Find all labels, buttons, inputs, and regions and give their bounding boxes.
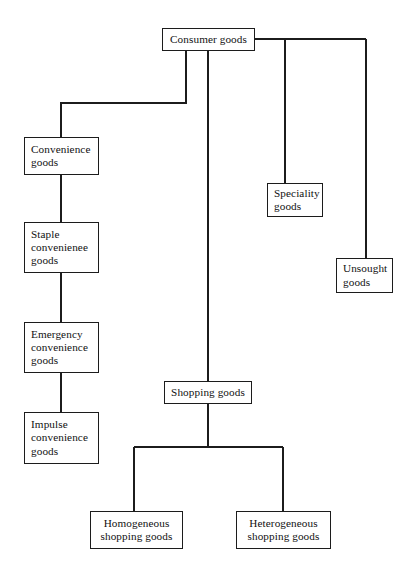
node-homogeneous-shopping-goods: Homogeneous shopping goods bbox=[90, 511, 183, 549]
node-unsought-goods: Unsought goods bbox=[336, 258, 393, 293]
consumer-goods-diagram: Consumer goods Convenience goods Staple … bbox=[0, 0, 405, 571]
node-convenience-goods: Convenience goods bbox=[24, 137, 99, 175]
node-unsought-goods-label: Unsought goods bbox=[343, 262, 387, 288]
node-consumer-goods-label: Consumer goods bbox=[167, 33, 250, 46]
node-homogeneous-shopping-goods-label: Homogeneous shopping goods bbox=[95, 517, 178, 543]
node-heterogeneous-shopping-goods-label: Heterogeneous shopping goods bbox=[241, 517, 326, 543]
node-staple-convenience-goods: Staple convenienee goods bbox=[24, 222, 99, 273]
node-staple-convenience-goods-label: Staple convenienee goods bbox=[31, 228, 93, 268]
node-heterogeneous-shopping-goods: Heterogeneous shopping goods bbox=[236, 511, 331, 549]
edge-consumer-to-convenience bbox=[61, 51, 186, 137]
node-impulse-convenience-goods: Impulse convenience goods bbox=[24, 412, 99, 464]
node-emergency-convenience-goods: Emergency convenience goods bbox=[24, 322, 99, 373]
node-impulse-convenience-goods-label: Impulse convenience goods bbox=[31, 418, 93, 458]
node-consumer-goods: Consumer goods bbox=[162, 28, 255, 51]
node-emergency-convenience-goods-label: Emergency convenience goods bbox=[31, 328, 93, 368]
node-shopping-goods-label: Shopping goods bbox=[169, 386, 247, 399]
node-convenience-goods-label: Convenience goods bbox=[31, 143, 93, 169]
node-speciality-goods: Speciality goods bbox=[267, 183, 323, 217]
node-speciality-goods-label: Speciality goods bbox=[274, 187, 317, 213]
node-shopping-goods: Shopping goods bbox=[164, 381, 252, 404]
